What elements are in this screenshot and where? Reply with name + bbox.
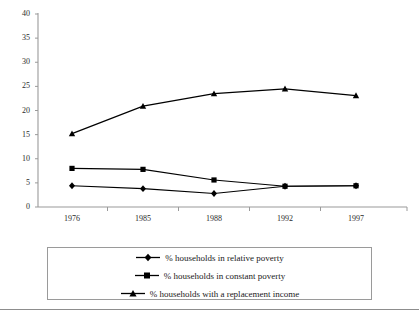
legend-marker-square-icon (134, 270, 160, 281)
x-tick-label: 1992 (262, 214, 308, 223)
legend-item: % households in constant poverty (48, 267, 371, 284)
marker-square (140, 167, 145, 172)
x-tick-label: 1985 (120, 214, 166, 223)
y-tick-label: 0 (8, 202, 30, 211)
y-tick-label: 5 (8, 178, 30, 187)
legend-item: % households with a replacement income (48, 285, 371, 302)
marker-diamond (69, 182, 75, 189)
legend-item: % households in relative poverty (48, 249, 371, 266)
legend-marker-triangle-icon (120, 288, 146, 299)
y-tick-label: 10 (8, 154, 30, 163)
legend-marker-diamond-icon (135, 252, 161, 263)
x-tick-label: 1988 (191, 214, 237, 223)
x-tick-label: 1976 (49, 214, 95, 223)
legend-label: % households in constant poverty (164, 271, 285, 281)
chart-figure: 4035302520151050 19761985198819921997 % … (0, 0, 419, 317)
y-tick-label: 20 (8, 106, 30, 115)
marker-diamond (140, 185, 146, 192)
legend-label: % households in relative poverty (165, 253, 283, 263)
marker-square (144, 273, 150, 279)
plot-area: 4035302520151050 19761985198819921997 (0, 0, 419, 232)
chart-legend: % households in relative poverty% househ… (47, 247, 372, 300)
x-tick-label: 1997 (333, 214, 379, 223)
y-tick-label: 25 (8, 81, 30, 90)
marker-square (353, 183, 358, 188)
marker-square (69, 166, 74, 171)
data-series-group (69, 86, 359, 197)
marker-square (282, 184, 287, 189)
y-tick-label: 40 (8, 9, 30, 18)
y-tick-label: 35 (8, 33, 30, 42)
marker-diamond (145, 254, 152, 262)
chart-canvas (0, 0, 419, 232)
footer-divider (0, 309, 419, 310)
marker-diamond (211, 190, 217, 197)
marker-square (211, 177, 216, 182)
axes (35, 13, 407, 211)
y-tick-label: 30 (8, 57, 30, 66)
legend-label: % households with a replacement income (150, 289, 300, 299)
series-line (72, 168, 356, 186)
y-tick-label: 15 (8, 130, 30, 139)
